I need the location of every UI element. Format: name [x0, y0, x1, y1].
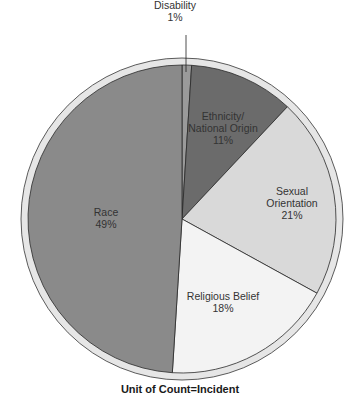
slice-label: Disability1%: [154, 0, 197, 23]
pie-chart: Disability1%Ethnicity/National Origin11%…: [0, 0, 360, 408]
slice-label: Race49%: [94, 206, 119, 230]
unit-of-count-caption: Unit of Count=Incident: [0, 383, 360, 395]
